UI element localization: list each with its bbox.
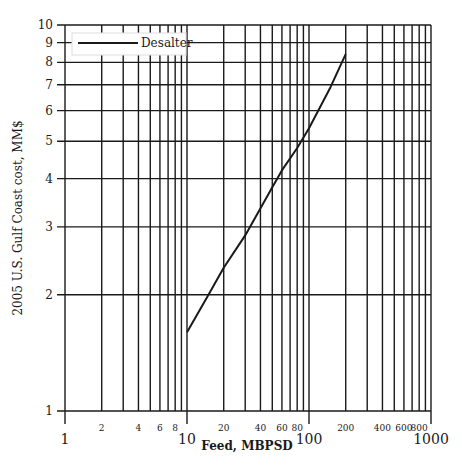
y-tick-label: 5 (45, 134, 53, 148)
y-tick-label: 9 (45, 36, 53, 50)
y-tick-label: 6 (45, 104, 53, 118)
y-tick-label: 3 (45, 220, 53, 234)
x-minor-tick-label: 200 (337, 423, 354, 433)
chart: 1101001000246820406080200400600800 12345… (0, 0, 462, 470)
x-major-tick-label: 1 (61, 431, 70, 447)
x-minor-tick-label: 40 (255, 423, 267, 433)
legend-label-desalter: Desalter (141, 36, 193, 50)
y-tick-label: 8 (45, 55, 53, 69)
y-tick-label: 10 (38, 18, 53, 32)
y-axis-label: 2005 U.S. Gulf Coast cost, MM$ (11, 120, 25, 315)
x-minor-tick-label: 60 (276, 423, 288, 433)
y-tick-label: 1 (45, 404, 53, 418)
series-desalter (187, 54, 346, 332)
y-tick-label: 7 (45, 78, 53, 92)
legend: Desalter (72, 33, 193, 55)
x-minor-tick-label: 2 (99, 423, 105, 433)
x-minor-tick-label: 4 (136, 423, 142, 433)
y-axis-ticks: 12345678910 (38, 18, 54, 418)
x-minor-tick-label: 400 (374, 423, 391, 433)
x-major-tick-label: 1000 (413, 431, 449, 447)
x-major-tick-label: 10 (178, 431, 196, 447)
series-line (187, 54, 346, 332)
y-tick-label: 2 (45, 288, 53, 302)
x-minor-tick-label: 800 (411, 423, 428, 433)
x-minor-tick-label: 8 (172, 423, 178, 433)
x-minor-tick-label: 80 (291, 423, 303, 433)
x-minor-tick-label: 20 (218, 423, 230, 433)
x-axis-label: Feed, MBPSD (201, 439, 292, 453)
x-major-tick-label: 100 (296, 431, 323, 447)
grid-lines (57, 25, 431, 424)
y-tick-label: 4 (45, 172, 53, 186)
x-minor-tick-label: 6 (157, 423, 163, 433)
